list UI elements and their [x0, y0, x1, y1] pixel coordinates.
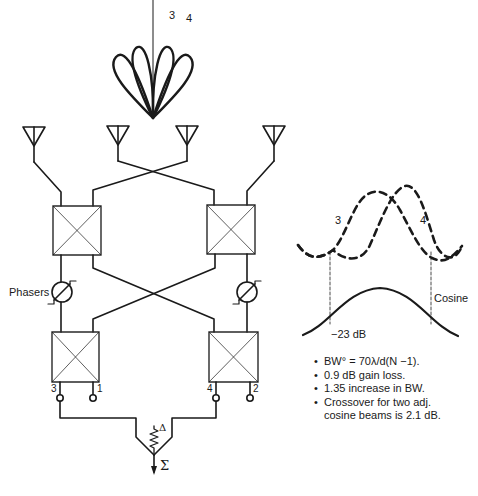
antenna-2 [107, 126, 129, 161]
combiner [60, 401, 216, 475]
beam-3-curve [298, 192, 462, 261]
middle-crossover-lines [61, 254, 247, 332]
hybrid-top-left [53, 206, 101, 255]
note-crossover-line1: Crossover for two adj. [324, 396, 431, 408]
hybrid-bottom-right [209, 332, 258, 382]
note-gain-loss: 0.9 dB gain loss. [313, 369, 441, 383]
phasers-label: Phasers [9, 287, 49, 298]
port-label-2: 2 [253, 384, 259, 394]
beam-label-4: 4 [420, 215, 426, 226]
cosine-label: Cosine [434, 293, 468, 304]
antenna-feed-lines [34, 161, 274, 206]
phaser-left [48, 281, 76, 304]
note-bw-increase: 1.35 increase in BW. [313, 382, 441, 396]
output-arrow-icon [151, 466, 157, 475]
note-crossover-line2: cosine beams is 2.1 dB. [324, 409, 441, 421]
note-crossover: Crossover for two adj. cosine beams is 2… [313, 396, 441, 423]
notes-list: BW° = 70λ/d(N −1). 0.9 dB gain loss. 1.3… [313, 355, 441, 423]
beam-pattern-lobes [113, 0, 192, 118]
beam-label-3: 3 [335, 215, 341, 226]
note-bandwidth: BW° = 70λ/d(N −1). [313, 355, 441, 369]
beam-4-curve [298, 186, 462, 259]
output-ports [57, 382, 253, 401]
antenna-3 [176, 126, 198, 161]
beam-plot-dashed [298, 186, 462, 261]
phaser-right [233, 281, 261, 304]
port-label-1: 1 [97, 384, 103, 394]
delta-label: Δ [159, 423, 166, 433]
sigma-label: Σ [160, 459, 169, 472]
port-label-3: 3 [51, 384, 57, 394]
lobe-label-4: 4 [186, 13, 192, 24]
lobe-label-3: 3 [169, 10, 175, 21]
level-label: −23 dB [331, 329, 366, 340]
antenna-4 [263, 126, 285, 161]
hybrid-bottom-left [52, 332, 99, 382]
hybrid-top-right [207, 205, 255, 254]
antenna-1 [23, 127, 45, 162]
port-label-4: 4 [207, 384, 213, 394]
